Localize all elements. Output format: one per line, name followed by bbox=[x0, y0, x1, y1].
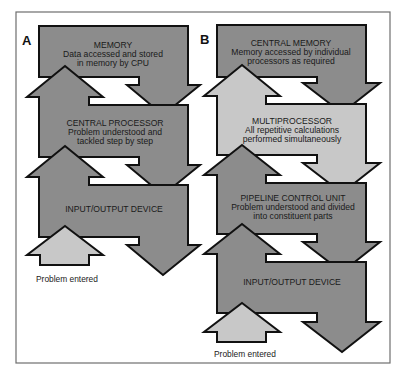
central-memory-desc-line-2: processors as required bbox=[247, 56, 335, 66]
panel-a-label: A bbox=[22, 33, 32, 48]
multiprocessor-desc-line-2: performed simultaneously bbox=[243, 134, 342, 144]
memory-desc-line-2: in memory by CPU bbox=[77, 58, 149, 68]
central-processor-desc-line-2: tackled step by step bbox=[77, 136, 153, 146]
problem-entered-caption: Problem entered bbox=[36, 274, 98, 284]
panel-b-label: B bbox=[200, 32, 209, 47]
io-device-title: INPUT/OUTPUT DEVICE bbox=[65, 204, 163, 214]
panel-b: B CENTRAL MEMORY Memory accessed by indi… bbox=[200, 25, 380, 359]
problem-entered-caption-b: Problem entered bbox=[214, 349, 276, 359]
computer-architecture-diagram: A MEMORY Data accessed and stored in mem… bbox=[0, 0, 402, 377]
io-device-title-b: INPUT/OUTPUT DEVICE bbox=[243, 277, 341, 287]
pipeline-control-unit-desc-line-2: into constituent parts bbox=[253, 211, 332, 221]
